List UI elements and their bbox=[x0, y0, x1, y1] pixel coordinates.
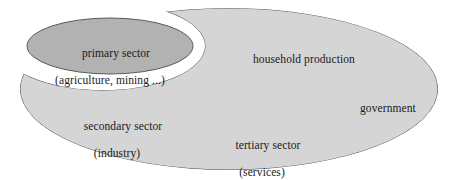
diagram-canvas bbox=[0, 0, 457, 180]
primary-sector-ellipse bbox=[27, 18, 193, 74]
economy-sectors-diagram: primary sector (agriculture, mining ...)… bbox=[0, 0, 457, 180]
